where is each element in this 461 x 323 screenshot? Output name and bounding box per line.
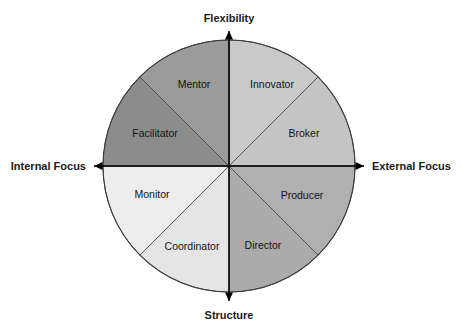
axis-label-external-focus: External Focus xyxy=(372,160,451,172)
axis-label-flexibility: Flexibility xyxy=(204,12,256,24)
segment-label-broker: Broker xyxy=(289,127,320,139)
segment-label-monitor: Monitor xyxy=(134,188,170,200)
segment-label-director: Director xyxy=(245,239,282,251)
axis-label-structure: Structure xyxy=(205,309,254,321)
axis-label-internal-focus: Internal Focus xyxy=(11,160,86,172)
segment-label-coordinator: Coordinator xyxy=(165,240,220,252)
segment-label-mentor: Mentor xyxy=(178,78,211,90)
competing-values-diagram: InnovatorBrokerProducerDirectorCoordinat… xyxy=(0,0,461,323)
diagram-canvas: InnovatorBrokerProducerDirectorCoordinat… xyxy=(0,0,461,323)
segment-label-producer: Producer xyxy=(281,189,324,201)
segment-label-facilitator: Facilitator xyxy=(132,127,178,139)
segment-label-innovator: Innovator xyxy=(250,78,294,90)
